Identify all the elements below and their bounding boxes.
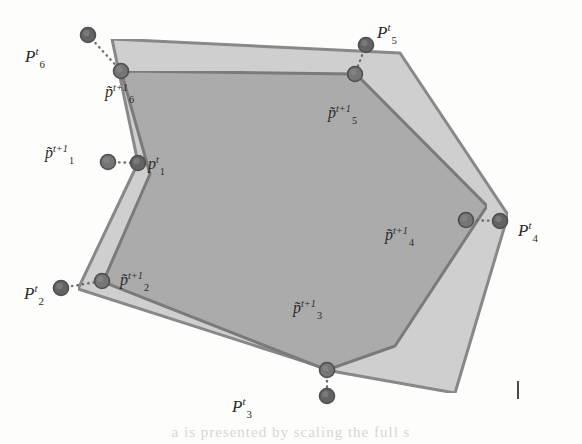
label-p_t_6: Pt6 <box>25 48 45 65</box>
label-subscript-p_tilde_3: 3 <box>316 310 322 321</box>
label-superscript-p_tilde_2: t+1 <box>128 270 143 281</box>
label-superscript-p_t_2: t <box>34 282 37 294</box>
label-subscript-p_t_6: 6 <box>38 58 44 70</box>
vertex-dot-highlight-P_t_6 <box>83 30 89 36</box>
label-superscript-p_tilde_6: t+1 <box>113 82 128 93</box>
label-p_t_1: pt1 <box>148 156 165 172</box>
label-base-p_tilde_6: p̃ <box>105 83 113 100</box>
label-p_tilde_1: p̃t+11 <box>45 145 74 161</box>
polygon-deformation-figure: pt1Pt2Pt3Pt4Pt5Pt6p̃t+11p̃t+12p̃t+13p̃t+… <box>0 0 582 444</box>
diagram-canvas <box>0 0 582 444</box>
label-subscript-p_t_1: 1 <box>159 166 165 177</box>
label-subscript-p_t_4: 4 <box>531 232 537 244</box>
label-p_t_3: Pt3 <box>232 398 252 415</box>
vertex-dot-highlight-pt1_3 <box>322 365 328 371</box>
vertex-dot-highlight-pt1_2 <box>97 276 103 282</box>
label-base-p_tilde_3: p̃ <box>293 299 301 316</box>
label-superscript-p_tilde_3: t+1 <box>301 298 316 309</box>
label-p_t_5: Pt5 <box>377 24 397 41</box>
vertex-dot-highlight-P_t_5 <box>361 40 367 46</box>
label-p_tilde_4: p̃t+14 <box>385 227 414 243</box>
label-base-p_t_1: p <box>148 155 156 172</box>
label-superscript-p_t_1: t <box>156 154 159 165</box>
label-superscript-p_tilde_1: t+1 <box>53 143 68 154</box>
label-base-p_t_3: P <box>232 397 242 416</box>
label-subscript-p_t_5: 5 <box>390 34 396 46</box>
label-p_tilde_3: p̃t+13 <box>293 300 322 316</box>
vertex-dot-highlight-pt1_4 <box>461 215 467 221</box>
polygon-group <box>78 39 508 393</box>
label-base-p_t_6: P <box>25 47 35 66</box>
label-p_tilde_2: p̃t+12 <box>120 272 149 288</box>
label-subscript-p_tilde_5: 5 <box>351 115 357 126</box>
label-superscript-p_t_4: t <box>528 219 531 231</box>
vertex-dot-highlight-pt1_5 <box>350 69 356 75</box>
label-subscript-p_tilde_6: 6 <box>128 94 134 105</box>
label-subscript-p_t_2: 2 <box>37 295 43 307</box>
label-base-p_tilde_5: p̃ <box>328 104 336 121</box>
label-base-p_t_4: P <box>518 221 528 240</box>
label-subscript-p_tilde_1: 1 <box>68 155 74 166</box>
vertex-dot-highlight-P_t_4 <box>495 216 501 222</box>
label-base-p_tilde_1: p̃ <box>45 144 53 161</box>
label-subscript-p_tilde_2: 2 <box>143 282 149 293</box>
label-base-p_tilde_4: p̃ <box>385 226 393 243</box>
label-p_tilde_6: p̃t+16 <box>105 84 134 100</box>
vertex-dot-highlight-pt1_6 <box>116 66 122 72</box>
label-superscript-p_tilde_4: t+1 <box>393 225 408 236</box>
label-subscript-p_t_3: 3 <box>245 408 251 420</box>
vertex-dot-highlight-P_t_1 <box>133 158 139 164</box>
label-base-p_t_2: P <box>24 284 34 303</box>
label-p_t_4: Pt4 <box>518 222 538 239</box>
page-tick-mark <box>517 381 519 399</box>
label-subscript-p_tilde_4: 4 <box>408 237 414 248</box>
label-base-p_tilde_2: p̃ <box>120 271 128 288</box>
vertex-dot-highlight-P_t_2 <box>56 283 62 289</box>
label-superscript-p_tilde_5: t+1 <box>336 103 351 114</box>
vertex-dot-highlight-P_t_3 <box>322 391 328 397</box>
label-base-p_t_5: P <box>377 23 387 42</box>
label-superscript-p_t_5: t <box>387 21 390 33</box>
label-superscript-p_t_3: t <box>242 395 245 407</box>
label-superscript-p_t_6: t <box>35 45 38 57</box>
label-p_t_2: Pt2 <box>24 285 44 302</box>
label-p_tilde_5: p̃t+15 <box>328 105 357 121</box>
vertex-dot-highlight-pt1_1 <box>103 157 109 163</box>
